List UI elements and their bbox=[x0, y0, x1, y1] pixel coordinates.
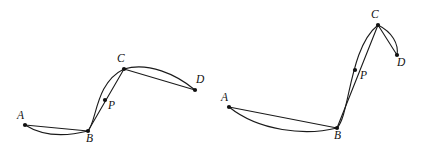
point-a-dot bbox=[227, 105, 231, 109]
point-label-c: C bbox=[371, 9, 379, 21]
point-p-dot bbox=[103, 98, 107, 102]
point-label-p: P bbox=[108, 100, 115, 112]
point-d-dot bbox=[193, 88, 197, 92]
point-label-p: P bbox=[360, 70, 367, 82]
point-label-b: B bbox=[334, 130, 341, 142]
point-label-a: A bbox=[17, 110, 24, 122]
point-label-d: D bbox=[196, 74, 204, 86]
chord-BC bbox=[337, 25, 378, 128]
right-diagram bbox=[227, 23, 399, 132]
point-label-d: D bbox=[397, 57, 405, 69]
chord-CD bbox=[124, 69, 195, 90]
point-c-dot bbox=[122, 67, 126, 71]
point-c-dot bbox=[376, 23, 380, 27]
point-label-a: A bbox=[221, 92, 228, 104]
point-p-dot bbox=[353, 68, 357, 72]
point-a-dot bbox=[23, 123, 27, 127]
point-label-c: C bbox=[117, 53, 125, 65]
point-label-b: B bbox=[86, 133, 93, 145]
diagram-canvas: ABPCDABPCD bbox=[0, 0, 425, 152]
